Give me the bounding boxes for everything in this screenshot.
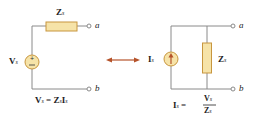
right-terminal-a: [231, 24, 235, 28]
left-terminal-b-label: b: [95, 83, 100, 93]
left-equation: Vs = ZsIs: [35, 95, 68, 105]
double-arrow-icon: [106, 58, 140, 63]
right-equation-denominator: Zs: [204, 106, 212, 115]
left-circuit-wires: [32, 26, 87, 89]
left-terminal-a: [87, 24, 91, 28]
left-impedance: [46, 22, 77, 31]
svg-text:+: +: [30, 55, 34, 62]
right-impedance-label: Zs: [218, 54, 226, 64]
current-source-label: Is: [148, 54, 154, 64]
right-equation-lhs: Is =: [173, 100, 186, 110]
left-impedance-label: Zs: [56, 7, 64, 17]
left-terminal-a-label: a: [95, 20, 100, 30]
right-terminal-a-label: a: [239, 20, 244, 30]
right-terminal-b-label: b: [239, 83, 244, 93]
right-impedance: [203, 43, 212, 73]
voltage-source-label: Vs: [9, 56, 18, 66]
left-terminal-b: [87, 87, 91, 91]
right-equation-numerator: Vs: [204, 94, 212, 103]
right-terminal-b: [231, 87, 235, 91]
